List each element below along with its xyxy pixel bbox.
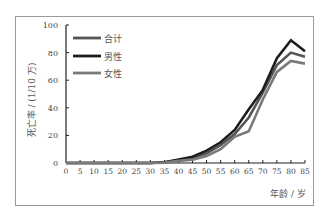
- y-tick-label: 20: [48, 131, 58, 140]
- y-tick-label: 60: [48, 76, 58, 85]
- x-tick-label: 30: [146, 167, 156, 176]
- x-tick-label: 25: [132, 167, 142, 176]
- legend-label: 女性: [104, 68, 122, 79]
- x-axis-label: 年龄 / 岁: [270, 188, 306, 199]
- legend-label: 男性: [104, 51, 122, 62]
- legend-label: 合计: [104, 33, 122, 44]
- y-tick-label: 0: [53, 159, 58, 168]
- x-tick-label: 50: [202, 167, 212, 176]
- x-tick-label: 10: [89, 167, 99, 176]
- x-tick-label: 65: [244, 167, 254, 176]
- x-tick-label: 35: [160, 167, 170, 176]
- x-tick-label: 5: [78, 167, 83, 176]
- x-tick-label: 15: [103, 167, 113, 176]
- y-tick-label: 40: [48, 104, 58, 113]
- y-tick-label: 100: [43, 21, 58, 30]
- x-tick-label: 60: [230, 167, 240, 176]
- chart-container: 020406080100 051015202530354045505560657…: [0, 0, 326, 222]
- y-tick-label: 80: [48, 49, 58, 58]
- x-tick-label: 80: [286, 167, 296, 176]
- x-tick-label: 0: [64, 167, 69, 176]
- x-tick-label: 40: [174, 167, 184, 176]
- mortality-line-chart: 020406080100 051015202530354045505560657…: [0, 0, 326, 222]
- chart-frame: [16, 17, 314, 206]
- y-axis-label: 死亡率 / (1/10 万): [26, 63, 37, 138]
- x-tick-label: 45: [188, 167, 198, 176]
- x-tick-label: 55: [216, 167, 226, 176]
- x-tick-label: 85: [300, 167, 310, 176]
- x-tick-label: 20: [117, 167, 127, 176]
- x-tick-label: 70: [258, 167, 268, 176]
- x-tick-label: 75: [272, 167, 282, 176]
